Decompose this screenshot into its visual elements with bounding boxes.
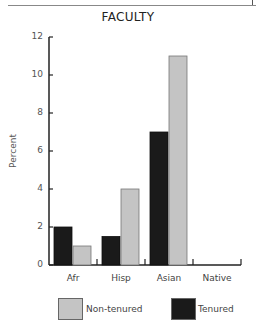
bar-tenured-afr bbox=[54, 227, 72, 265]
legend-label-tenured: Tenured bbox=[198, 304, 234, 314]
y-tick-label: 12 bbox=[27, 31, 43, 41]
y-tick-label: 0 bbox=[27, 259, 43, 269]
bar-non-tenured-asian bbox=[169, 56, 187, 265]
legend-label-non-tenured: Non-tenured bbox=[86, 304, 142, 314]
axes bbox=[49, 37, 241, 265]
y-tick-label: 4 bbox=[27, 183, 43, 193]
y-tick-label: 8 bbox=[27, 107, 43, 117]
x-tick-label: Afr bbox=[49, 273, 97, 283]
legend-swatch-non-tenured bbox=[58, 298, 83, 320]
bar-tenured-asian bbox=[150, 132, 168, 265]
y-tick-label: 6 bbox=[27, 145, 43, 155]
x-tick-label: Asian bbox=[145, 273, 193, 283]
y-tick-label: 2 bbox=[27, 221, 43, 231]
bars bbox=[54, 56, 187, 265]
legend-swatch-tenured bbox=[171, 298, 196, 320]
y-tick-label: 10 bbox=[27, 69, 43, 79]
bar-non-tenured-hisp bbox=[121, 189, 139, 265]
bar-tenured-hisp bbox=[102, 237, 120, 266]
x-tick-label: Hisp bbox=[97, 273, 145, 283]
bar-non-tenured-afr bbox=[73, 246, 91, 265]
x-tick-label: Native bbox=[193, 273, 241, 283]
